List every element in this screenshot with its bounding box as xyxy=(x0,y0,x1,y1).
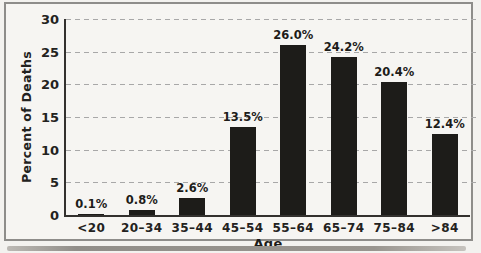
x-tick-label: 55–64 xyxy=(273,221,314,235)
chart-figure: Percent of Deaths 051015202530 0.1%<200.… xyxy=(0,0,481,253)
chart-frame-border: Percent of Deaths 051015202530 0.1%<200.… xyxy=(4,2,473,241)
x-tick-label: <20 xyxy=(77,221,105,235)
y-tick-label-0: 0 xyxy=(50,207,59,224)
x-tick-label: 45–54 xyxy=(222,221,263,235)
bar-slot: 0.8%20–34 xyxy=(117,19,168,215)
bar-slot: 13.5%45–54 xyxy=(218,19,269,215)
x-tick-label: >84 xyxy=(431,221,459,235)
y-tick-label-5: 5 xyxy=(50,174,59,191)
bar-value-label: 2.6% xyxy=(176,181,208,195)
bar-45–54 xyxy=(230,127,256,215)
y-tick-label-30: 30 xyxy=(41,11,59,28)
bar-slot: 20.4%75–84 xyxy=(369,19,420,215)
bar-slot: 12.4%>84 xyxy=(420,19,471,215)
bar-75–84 xyxy=(381,82,407,215)
bar-<20 xyxy=(78,214,104,216)
bar-slot: 0.1%<20 xyxy=(66,19,117,215)
bar-value-label: 12.4% xyxy=(425,117,465,131)
x-tick-label: 65–74 xyxy=(323,221,364,235)
x-tick-label: 20–34 xyxy=(121,221,162,235)
plot-area: 051015202530 0.1%<200.8%20–342.6%35–4413… xyxy=(64,19,470,217)
bar-slot: 2.6%35–44 xyxy=(167,19,218,215)
bar-value-label: 0.8% xyxy=(126,193,158,207)
bar-value-label: 13.5% xyxy=(223,110,263,124)
y-tick-label-25: 25 xyxy=(41,44,59,61)
x-tick-label: 35–44 xyxy=(172,221,213,235)
bar->84 xyxy=(432,134,458,215)
x-tick-label: 75–84 xyxy=(374,221,415,235)
bar-slot: 24.2%65–74 xyxy=(319,19,370,215)
bar-20–34 xyxy=(129,210,155,215)
bar-65–74 xyxy=(331,57,357,215)
bar-value-label: 0.1% xyxy=(75,197,107,211)
y-tick-label-15: 15 xyxy=(41,109,59,126)
bar-value-label: 20.4% xyxy=(374,65,414,79)
bar-35–44 xyxy=(179,198,205,215)
scan-shadow-band xyxy=(7,246,466,251)
bar-value-label: 26.0% xyxy=(273,28,313,42)
y-axis-title: Percent of Deaths xyxy=(19,51,34,183)
bar-value-label: 24.2% xyxy=(324,40,364,54)
y-tick-label-20: 20 xyxy=(41,76,59,93)
bar-slot: 26.0%55–64 xyxy=(268,19,319,215)
y-tick-label-10: 10 xyxy=(41,142,59,159)
bar-55–64 xyxy=(280,45,306,215)
